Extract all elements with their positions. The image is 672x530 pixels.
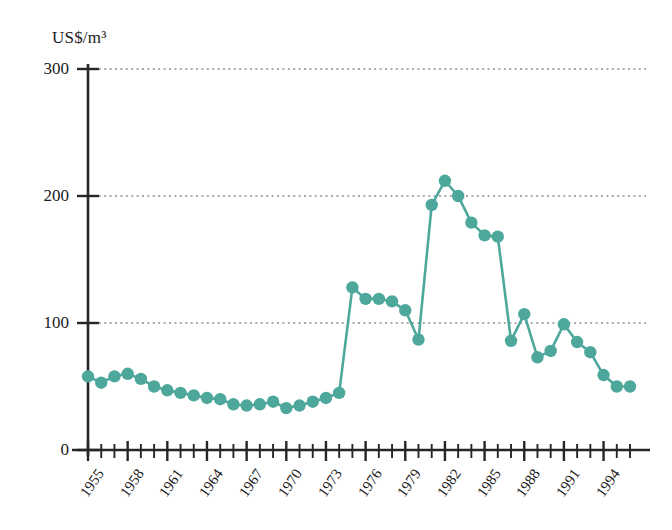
data-point[interactable] bbox=[531, 351, 543, 363]
data-point[interactable] bbox=[611, 380, 623, 392]
data-point[interactable] bbox=[201, 392, 213, 404]
y-tick-label: 300 bbox=[44, 59, 70, 79]
data-point[interactable] bbox=[346, 281, 358, 293]
data-point[interactable] bbox=[174, 387, 186, 399]
data-point[interactable] bbox=[254, 398, 266, 410]
data-point[interactable] bbox=[280, 402, 292, 414]
data-point[interactable] bbox=[293, 399, 305, 411]
data-point[interactable] bbox=[333, 387, 345, 399]
data-point[interactable] bbox=[386, 295, 398, 307]
data-point[interactable] bbox=[624, 380, 636, 392]
data-point[interactable] bbox=[492, 230, 504, 242]
data-point[interactable] bbox=[108, 370, 120, 382]
data-point[interactable] bbox=[426, 199, 438, 211]
data-point[interactable] bbox=[121, 368, 133, 380]
data-point[interactable] bbox=[544, 345, 556, 357]
y-tick-label: 0 bbox=[61, 440, 70, 460]
data-point[interactable] bbox=[214, 393, 226, 405]
y-tick-label: 100 bbox=[44, 313, 70, 333]
data-point[interactable] bbox=[227, 398, 239, 410]
series-line-0 bbox=[88, 181, 630, 408]
data-point[interactable] bbox=[597, 369, 609, 381]
data-point[interactable] bbox=[135, 373, 147, 385]
axis-lines-group bbox=[72, 64, 650, 456]
gridlines-group bbox=[88, 69, 646, 323]
data-point[interactable] bbox=[558, 318, 570, 330]
data-point[interactable] bbox=[161, 384, 173, 396]
data-point[interactable] bbox=[320, 392, 332, 404]
data-point[interactable] bbox=[240, 399, 252, 411]
chart-container: US$/m³ 0100200300 1955195819611964196719… bbox=[0, 0, 672, 530]
data-point[interactable] bbox=[359, 293, 371, 305]
y-tick-label: 200 bbox=[44, 186, 70, 206]
data-point[interactable] bbox=[82, 370, 94, 382]
data-point[interactable] bbox=[148, 380, 160, 392]
line-chart-plot bbox=[0, 0, 672, 530]
data-point[interactable] bbox=[412, 333, 424, 345]
data-point[interactable] bbox=[518, 308, 530, 320]
data-point[interactable] bbox=[188, 389, 200, 401]
data-point[interactable] bbox=[307, 396, 319, 408]
data-point[interactable] bbox=[439, 175, 451, 187]
data-point[interactable] bbox=[584, 346, 596, 358]
data-point[interactable] bbox=[505, 335, 517, 347]
data-point[interactable] bbox=[399, 304, 411, 316]
data-series-group bbox=[82, 175, 636, 415]
data-point[interactable] bbox=[267, 396, 279, 408]
data-point[interactable] bbox=[478, 229, 490, 241]
data-point[interactable] bbox=[95, 376, 107, 388]
data-point[interactable] bbox=[571, 336, 583, 348]
data-point[interactable] bbox=[452, 190, 464, 202]
data-point[interactable] bbox=[465, 216, 477, 228]
data-point[interactable] bbox=[373, 293, 385, 305]
